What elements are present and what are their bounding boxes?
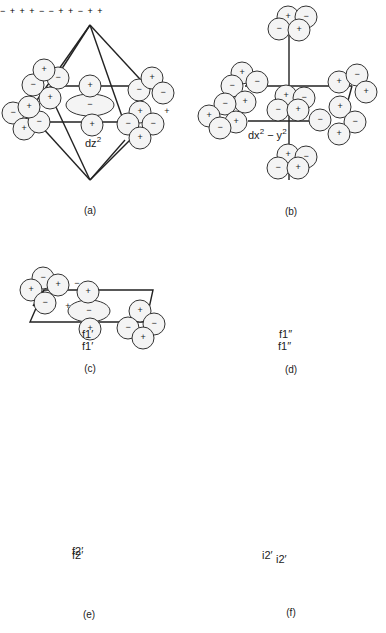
panel-c-orbital-label: f1′	[82, 340, 93, 352]
caption-c: (c)	[84, 363, 96, 374]
svg-text:−: −	[87, 99, 92, 109]
svg-text:+: +	[65, 301, 70, 311]
panel-d-label: f1″	[279, 328, 292, 340]
caption-b: (b)	[285, 206, 297, 217]
svg-text:−: −	[86, 305, 91, 315]
panel-c-label: f1′	[82, 328, 93, 340]
panel-f-orbital-label: i2′	[276, 553, 287, 565]
panel-d-orbital-label: f1″	[278, 340, 291, 352]
panel-f-label: i2′	[262, 549, 273, 561]
panel-a-diagram: − +	[2, 25, 174, 180]
panel-e-label: f2′	[72, 545, 83, 557]
svg-text:−: −	[74, 278, 79, 288]
panel-b-orbital-label: dx2 − y2	[248, 127, 318, 147]
orbital-diagram: + − − + dz2	[0, 0, 386, 633]
caption-d: (d)	[285, 364, 297, 375]
panel-a-orbital-label: dz2	[85, 135, 125, 155]
caption-e: (e)	[83, 609, 95, 620]
caption-f: (f)	[286, 607, 295, 618]
caption-a: (a)	[84, 205, 96, 216]
svg-text:+: +	[164, 106, 169, 116]
panel-b-bottom-ligand	[267, 144, 317, 179]
